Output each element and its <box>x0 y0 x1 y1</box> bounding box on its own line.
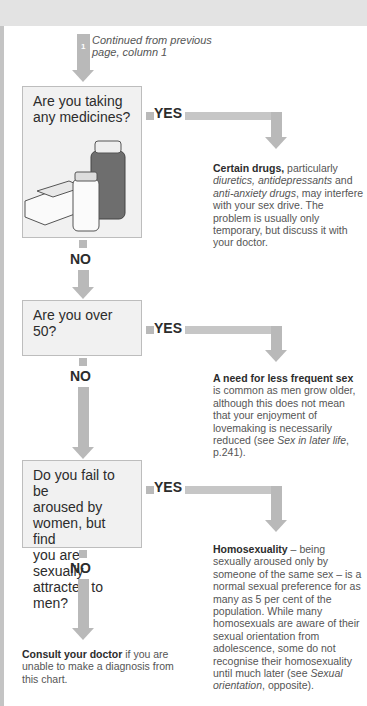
yes-arrow-head-icon <box>265 137 287 149</box>
yes-connector-square <box>146 112 154 120</box>
answer-homosexuality: Homosexuality – being sexually aroused o… <box>213 543 363 692</box>
answer-title: Certain drugs, <box>213 162 284 174</box>
question-line: aroused by <box>33 499 131 515</box>
answer-text: – being sexually aroused only by someone… <box>213 543 361 679</box>
medicine-bottles-icon <box>23 139 141 234</box>
continued-line-2: page, column 1 <box>92 46 212 58</box>
question-line: Are you taking <box>33 93 131 109</box>
question-line: Are you over 50? <box>33 307 131 339</box>
continued-line-1: Continued from previous <box>92 34 212 46</box>
answer-certain-drugs: Certain drugs, particularly diuretics, a… <box>213 162 363 249</box>
answer-italic: diuretics, antidepressants <box>213 174 332 186</box>
question-line: Do you fail to be <box>33 467 131 499</box>
question-box-medicines: Are you taking any medicines? <box>22 86 142 238</box>
no-arrow-shaft <box>78 270 89 288</box>
continued-badge: 1 <box>81 42 85 51</box>
no-arrow-shaft <box>78 387 89 447</box>
question-line: any medicines? <box>33 109 131 125</box>
no-connector-square <box>79 550 87 558</box>
question-box-over-50: Are you over 50? <box>22 300 142 356</box>
question-box-attraction: Do you fail to be aroused by women, but … <box>22 460 142 548</box>
yes-arrow-bar <box>185 486 282 494</box>
left-margin-strip <box>0 26 4 706</box>
yes-arrow-shaft <box>271 486 282 520</box>
yes-arrow-head-icon <box>265 520 287 532</box>
answer-text: , opposite). <box>262 679 314 691</box>
final-title: Consult your doctor <box>22 648 122 660</box>
continued-arrow-shaft <box>77 34 90 70</box>
no-label: NO <box>70 368 91 384</box>
no-connector-square <box>79 240 87 248</box>
yes-connector-square <box>146 326 154 334</box>
yes-label: YES <box>154 320 182 336</box>
question-line: women, but find <box>33 515 131 547</box>
no-arrow-head-icon <box>72 447 94 459</box>
yes-label: YES <box>154 105 182 121</box>
yes-arrow-bar <box>185 112 282 120</box>
no-arrow-head-icon <box>72 287 94 299</box>
answer-title: A need for less frequent sex <box>213 372 353 384</box>
answer-italic: anti-anxiety drugs <box>213 187 296 199</box>
continued-note: Continued from previous page, column 1 <box>92 34 212 58</box>
answer-less-frequent-sex: A need for less frequent sex is common a… <box>213 372 363 459</box>
no-label: NO <box>70 560 91 576</box>
no-arrow-head-icon <box>72 628 94 640</box>
no-connector-square <box>79 358 87 366</box>
continued-arrow-head-icon <box>72 70 94 82</box>
yes-arrow-head-icon <box>265 350 287 362</box>
answer-text: particularly <box>284 162 338 174</box>
answer-italic: Sex in later life <box>277 434 346 446</box>
yes-connector-square <box>146 486 154 494</box>
final-consult-doctor: Consult your doctor if you are unable to… <box>22 648 182 685</box>
yes-arrow-shaft <box>271 112 282 137</box>
no-label: NO <box>70 251 91 267</box>
answer-text: and <box>332 174 352 186</box>
top-band <box>0 0 367 26</box>
yes-label: YES <box>154 479 182 495</box>
answer-title: Homosexuality <box>213 543 288 555</box>
no-arrow-shaft <box>78 579 89 629</box>
yes-arrow-bar <box>185 326 282 334</box>
yes-arrow-shaft <box>271 326 282 351</box>
